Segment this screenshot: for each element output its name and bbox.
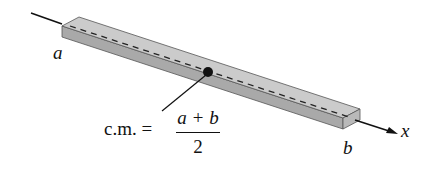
fraction-numerator: a + b	[176, 107, 220, 133]
center-of-mass-leader-line	[162, 75, 206, 111]
rod-top-face	[62, 17, 360, 118]
center-of-mass-prefix: c.m. =	[104, 119, 152, 138]
fraction-denominator: 2	[176, 133, 220, 158]
center-of-mass-fraction: a + b 2	[176, 107, 220, 158]
axis-left-segment	[31, 13, 62, 24]
rod-center-of-mass-diagram: a b x c.m. = a + b 2	[0, 0, 436, 170]
axis-right-segment	[355, 120, 392, 132]
right-end-label-b: b	[343, 138, 353, 157]
x-axis-arrowhead-icon	[386, 127, 398, 134]
left-end-label-a: a	[53, 43, 63, 62]
x-axis-label: x	[401, 121, 409, 140]
